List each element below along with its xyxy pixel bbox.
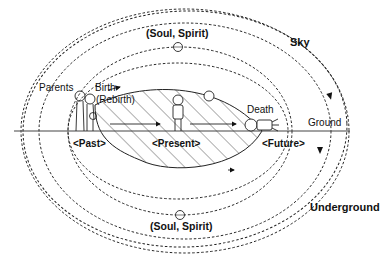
future-label: <Future> <box>262 138 305 149</box>
sky-label: Sky <box>290 36 310 48</box>
down-arrow-icon <box>317 147 323 154</box>
present-label: <Present> <box>152 138 201 149</box>
life-cycle-diagram: (Soul, Spirit) Sky Parents Birth (Rebirt… <box>0 0 384 263</box>
rebirth-label: (Rebirth) <box>96 94 135 105</box>
up-arrow-icon <box>326 92 334 100</box>
birth-label: Birth <box>95 82 116 93</box>
parents-label: Parents <box>39 82 73 93</box>
soul-label-bottom: (Soul, Spirit) <box>150 220 212 232</box>
parents-figures-icon <box>75 91 95 131</box>
death-label: Death <box>247 104 274 115</box>
ground-label: Ground <box>308 117 341 128</box>
aging-circle-icon <box>204 91 214 101</box>
lying-body-icon <box>245 119 279 131</box>
past-label: <Past> <box>73 138 106 149</box>
soul-label-top: (Soul, Spirit) <box>146 27 208 39</box>
underground-label: Underground <box>310 201 380 213</box>
